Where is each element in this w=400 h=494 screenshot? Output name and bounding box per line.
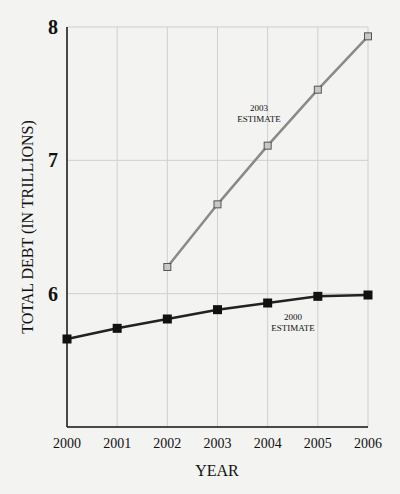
annotation-year: 2000	[284, 312, 303, 322]
x-tick-label: 2001	[103, 436, 131, 451]
data-point-marker	[264, 142, 271, 149]
x-tick-label: 2006	[354, 436, 382, 451]
x-axis-ticks: 2000200120022003200420052006	[53, 436, 382, 451]
x-tick-label: 2000	[53, 436, 81, 451]
x-axis-label: YEAR	[195, 462, 239, 479]
annotation-year: 2003	[250, 103, 269, 113]
data-point-marker	[313, 292, 322, 301]
data-point-marker	[163, 315, 172, 324]
data-point-marker	[214, 201, 221, 208]
y-axis-label: TOTAL DEBT (IN TRILLIONS)	[19, 120, 37, 334]
data-point-marker	[164, 264, 171, 271]
x-tick-label: 2002	[153, 436, 181, 451]
annotation-estimate: ESTIMATE	[271, 323, 315, 333]
data-point-marker	[365, 33, 372, 40]
data-point-marker	[63, 335, 72, 344]
x-tick-label: 2004	[254, 436, 282, 451]
data-point-marker	[263, 299, 272, 308]
gridlines	[67, 27, 368, 427]
data-point-marker	[314, 86, 321, 93]
x-tick-label: 2003	[204, 436, 232, 451]
line-chart: 678 2000200120022003200420052006 2000EST…	[0, 0, 400, 494]
y-tick-label: 6	[48, 283, 58, 305]
y-tick-label: 7	[48, 149, 58, 171]
y-axis-ticks: 678	[48, 16, 58, 305]
annotation-estimate: ESTIMATE	[237, 114, 281, 124]
x-tick-label: 2005	[304, 436, 332, 451]
y-tick-label: 8	[48, 16, 58, 38]
data-point-marker	[113, 324, 122, 333]
data-point-marker	[213, 305, 222, 314]
data-point-marker	[364, 291, 373, 300]
